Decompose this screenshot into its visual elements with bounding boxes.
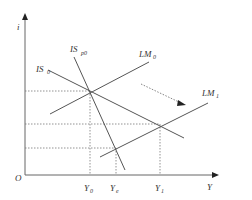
x-axis	[25, 172, 219, 178]
shift-arrow	[141, 84, 186, 106]
lm1-curve	[100, 103, 208, 157]
tick-ye: Y e	[110, 183, 119, 194]
svg-text:0: 0	[47, 69, 50, 75]
x-axis-arrow-icon	[212, 172, 219, 178]
origin-label: O	[15, 173, 22, 183]
is0-label: IS 0	[35, 64, 50, 75]
lm1-label: LM 1	[201, 88, 219, 99]
svg-text:LM: LM	[201, 88, 215, 98]
y-axis-label: i	[17, 22, 20, 32]
svg-text:0: 0	[153, 54, 156, 60]
shift-arrow-head-icon	[177, 100, 186, 106]
x-axis-label: Y	[207, 182, 213, 192]
lm0-label: LM 0	[138, 49, 156, 60]
lm0-curve	[50, 62, 149, 114]
isp0-curve	[74, 57, 125, 170]
svg-text:1: 1	[216, 93, 219, 99]
isp0-label: IS p0	[69, 44, 87, 56]
svg-text:0: 0	[90, 188, 93, 194]
svg-text:IS: IS	[69, 44, 78, 54]
svg-text:p0: p0	[80, 50, 87, 56]
is-lm-diagram: i O Y IS 0 IS p0 LM 0 LM 1 Y 0 Y e Y 1	[0, 0, 252, 200]
tick-y1: Y 1	[155, 183, 164, 194]
dashed-guides	[25, 91, 160, 175]
svg-text:LM: LM	[138, 49, 152, 59]
svg-text:1: 1	[161, 188, 164, 194]
tick-y0: Y 0	[84, 183, 93, 194]
svg-text:e: e	[116, 188, 119, 194]
svg-text:IS: IS	[35, 64, 44, 74]
y-axis-arrow-icon	[22, 13, 28, 20]
y-axis	[22, 13, 28, 175]
